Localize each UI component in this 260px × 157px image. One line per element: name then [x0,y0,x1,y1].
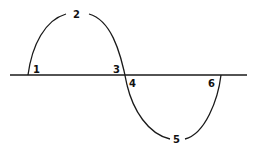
point-label-4: 4 [129,78,136,89]
point-label-3: 3 [113,64,120,75]
sine-wave-diagram: 1 2 3 4 5 6 [0,0,260,157]
point-label-5: 5 [173,134,180,145]
wave-negative-half [127,75,221,139]
point-label-1: 1 [33,64,40,75]
point-label-6: 6 [208,78,215,89]
point-label-2: 2 [73,9,80,20]
